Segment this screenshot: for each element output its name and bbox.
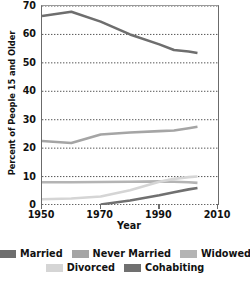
legend-label: Divorced bbox=[67, 262, 115, 273]
series-line-divorced bbox=[42, 177, 197, 200]
x-tick-label: 1990 bbox=[145, 209, 172, 220]
y-tick-label: 40 bbox=[10, 85, 36, 96]
plot-canvas bbox=[42, 6, 218, 205]
y-tick-label: 70 bbox=[10, 0, 36, 11]
y-tick-label: 20 bbox=[10, 142, 36, 153]
legend-swatch-icon bbox=[0, 250, 16, 258]
legend-entry-never-married[interactable]: Never Married bbox=[72, 248, 171, 259]
legend-row: DivorcedCohabiting bbox=[0, 262, 250, 273]
chart-legend: MarriedNever MarriedWidowedDivorcedCohab… bbox=[0, 248, 250, 276]
legend-label: Widowed bbox=[201, 248, 250, 259]
series-line-widowed bbox=[42, 181, 197, 182]
series-line-never-married bbox=[42, 127, 197, 143]
x-tick-label: 1970 bbox=[86, 209, 113, 220]
plot-area bbox=[41, 5, 219, 205]
legend-swatch-icon bbox=[180, 250, 197, 258]
y-tick-label: 0 bbox=[10, 199, 36, 210]
legend-label: Cohabiting bbox=[145, 262, 204, 273]
series-lines bbox=[42, 12, 197, 205]
legend-entry-widowed[interactable]: Widowed bbox=[180, 248, 250, 259]
x-tick-label: 1950 bbox=[28, 209, 55, 220]
y-axis-title: Percent of People 15 and Older bbox=[7, 28, 17, 178]
legend-swatch-icon bbox=[124, 264, 141, 272]
legend-label: Married bbox=[20, 248, 63, 259]
legend-entry-cohabiting[interactable]: Cohabiting bbox=[124, 262, 204, 273]
legend-swatch-icon bbox=[72, 250, 89, 258]
series-line-married bbox=[42, 12, 197, 53]
legend-swatch-icon bbox=[46, 264, 63, 272]
legend-row: MarriedNever MarriedWidowed bbox=[0, 248, 250, 259]
x-axis-title: Year bbox=[41, 220, 217, 231]
legend-entry-divorced[interactable]: Divorced bbox=[46, 262, 115, 273]
y-tick-label: 10 bbox=[10, 170, 36, 181]
chart-figure: Percent of People 15 and Older 706050403… bbox=[0, 0, 250, 284]
y-tick-label: 30 bbox=[10, 113, 36, 124]
legend-entry-married[interactable]: Married bbox=[0, 248, 63, 259]
y-tick-label: 50 bbox=[10, 56, 36, 67]
x-tick-label: 2010 bbox=[204, 209, 231, 220]
legend-label: Never Married bbox=[93, 248, 171, 259]
series-line-cohabiting bbox=[101, 188, 198, 204]
y-tick-label: 60 bbox=[10, 28, 36, 39]
